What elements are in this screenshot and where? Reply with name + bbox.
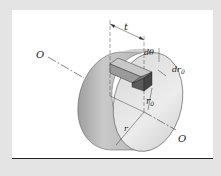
t-arrow-right [139, 36, 144, 40]
axis-label-right: O [178, 133, 186, 144]
axis-label-left: O [36, 49, 44, 60]
disk-diagram: O O t dθ dr0 r0 r [0, 0, 221, 176]
thickness-label-t: t [124, 21, 129, 32]
dr0-label: dr0 [172, 65, 185, 75]
axis-line-left [48, 57, 84, 78]
t-arrow-left [110, 24, 115, 28]
dtheta-label: dθ [144, 48, 154, 57]
